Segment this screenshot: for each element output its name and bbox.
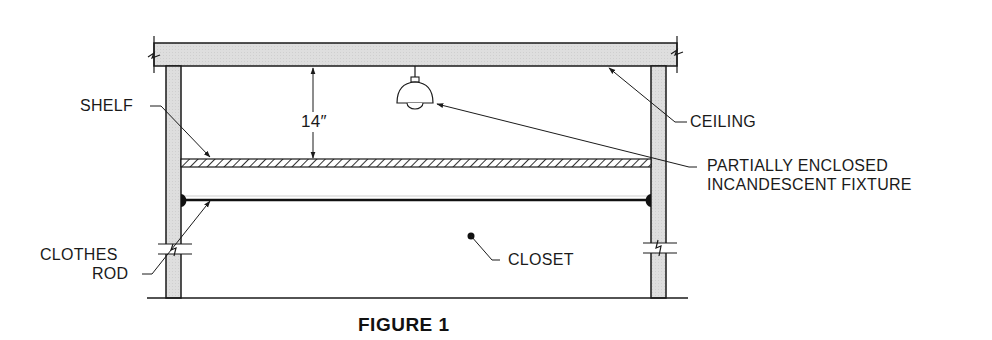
left-wall-post — [158, 66, 192, 298]
dimension-label: 14″ — [300, 113, 328, 131]
shelf — [181, 159, 651, 167]
clothes-rod-label-line1: CLOTHES — [40, 246, 118, 264]
fixture-label-line1: PARTIALLY ENCLOSED — [707, 157, 888, 175]
clothes-rod-label-line2: ROD — [92, 265, 128, 283]
closet-label: CLOSET — [508, 251, 574, 269]
figure-title: FIGURE 1 — [358, 314, 450, 336]
fixture-label-line2: INCANDESCENT FIXTURE — [707, 176, 912, 194]
shelf-label: SHELF — [80, 97, 133, 115]
ceiling-label: CEILING — [690, 113, 756, 131]
incandescent-fixture-icon — [397, 66, 433, 109]
right-wall-post — [643, 66, 677, 298]
